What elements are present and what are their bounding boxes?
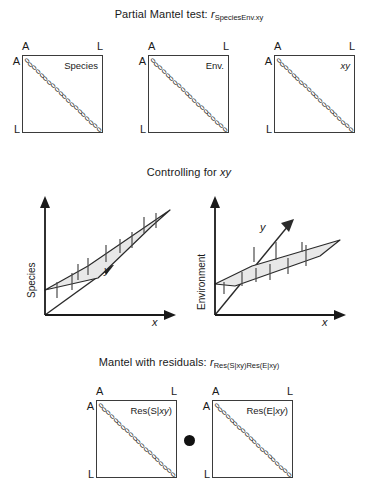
matrix-top-3-corner-left-l: L — [266, 124, 272, 135]
matrix-top-1-corner-left-l: L — [14, 124, 20, 135]
matrix-top-1-corner-left-a: A — [13, 56, 20, 67]
plot-species-depth-label: y — [104, 264, 110, 276]
matrix-bottom-1-corner-top-l: L — [171, 386, 177, 397]
plot-environment-y-label: Environment — [196, 254, 207, 310]
matrix-res-env: 00000000000000000000 Res(E|xy) — [212, 400, 293, 478]
matrix-res-species-label: Res(S|xy) — [130, 405, 172, 416]
bottom-title-subscript: Res(S|xy)Res(E|xy) — [214, 361, 280, 370]
matrix-xy: 00000000000000000000 xy — [274, 55, 355, 133]
environment-plane-surface — [215, 240, 340, 286]
top-title-prefix: Partial Mantel test: — [115, 8, 211, 20]
matrix-env-label: Env. — [206, 60, 224, 71]
top-title-subscript: SpeciesEnv.xy — [215, 13, 264, 22]
matrix-res-env-label: Res(E|xy) — [246, 405, 288, 416]
middle-section-title: Controlling for xy — [0, 166, 378, 178]
matrix-species-label: Species — [64, 60, 98, 71]
matrix-top-3-corner-top-a: A — [274, 41, 281, 52]
matrix-xy-label: xy — [341, 60, 351, 71]
matrix-bottom-1-corner-left-l: L — [88, 469, 94, 480]
matrix-top-1-corner-top-a: A — [22, 41, 29, 52]
y-axis-arrowhead — [210, 196, 220, 208]
top-section-title: Partial Mantel test: rSpeciesEnv.xy — [0, 8, 378, 22]
y-axis-arrowhead — [40, 196, 50, 208]
matrix-bottom-2-corner-left-a: A — [203, 401, 210, 412]
species-plane-surface — [45, 210, 170, 290]
matrix-bottom-2-corner-top-l: L — [287, 386, 293, 397]
matrix-top-2-corner-top-a: A — [148, 41, 155, 52]
plot-environment-x-label: x — [322, 316, 328, 328]
plot-species-y-label: Species — [26, 262, 37, 298]
middle-title-prefix: Controlling for — [147, 166, 220, 178]
species-error-bars — [57, 213, 156, 298]
plot-species-3d: Species x y — [20, 190, 190, 330]
figure-root: Partial Mantel test: rSpeciesEnv.xy A L … — [0, 0, 378, 497]
matrix-top-3-corner-top-l: L — [349, 41, 355, 52]
matrix-bottom-2-corner-top-a: A — [212, 386, 219, 397]
plot-species-svg — [20, 190, 190, 330]
matrix-top-2-corner-left-l: L — [140, 124, 146, 135]
matrix-bottom-1-corner-left-a: A — [87, 401, 94, 412]
depth-axis-arrowhead — [281, 219, 294, 232]
matrix-bottom-2-corner-left-l: L — [204, 469, 210, 480]
matrix-res-species: 00000000000000000000 Res(S|xy) — [96, 400, 177, 478]
matrix-top-3-corner-left-a: A — [265, 56, 272, 67]
matrix-top-2-corner-top-l: L — [223, 41, 229, 52]
x-axis-arrowhead — [334, 310, 346, 320]
bottom-title-prefix: Mantel with residuals: — [99, 356, 210, 368]
plot-environment-svg — [190, 190, 370, 330]
plot-environment-3d: Environment x y — [190, 190, 370, 330]
dot-operator-icon — [184, 435, 195, 446]
bottom-section-title: Mantel with residuals: rRes(S|xy)Res(E|x… — [0, 356, 378, 370]
matrix-top-2-corner-left-a: A — [139, 56, 146, 67]
plot-species-x-label: x — [152, 316, 158, 328]
matrix-species: 00000000000000000000 Species — [22, 55, 103, 133]
matrix-bottom-1-corner-top-a: A — [96, 386, 103, 397]
middle-title-italic: xy — [220, 166, 231, 178]
plot-environment-depth-label: y — [260, 221, 266, 233]
matrix-env: 00000000000000000000 Env. — [148, 55, 229, 133]
x-axis-arrowhead — [164, 310, 176, 320]
matrix-top-1-corner-top-l: L — [97, 41, 103, 52]
